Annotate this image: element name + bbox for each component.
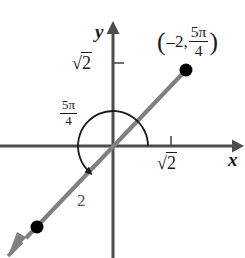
y-tick-radicand: 2	[81, 52, 92, 72]
sqrt-symbol-x: √2	[156, 152, 177, 172]
x-axis-tick-label: √2	[156, 152, 177, 172]
angle-numerator: 5π	[60, 99, 77, 114]
point-coordinate-label: ( –2, 5π 4 )	[157, 24, 218, 59]
y-axis-arrowhead	[107, 21, 120, 34]
point-angle-numerator: 5π	[189, 24, 209, 42]
sqrt-symbol-y: √2	[71, 52, 92, 72]
y-axis-label: y	[95, 22, 103, 41]
point-angle-fraction: 5π 4	[189, 24, 209, 59]
x-tick-radicand: 2	[166, 152, 177, 172]
close-paren: )	[209, 31, 218, 54]
angle-denominator: 4	[63, 114, 73, 128]
radius-value: –2,	[167, 33, 188, 50]
open-paren: (	[157, 31, 166, 54]
angle-fraction: 5π 4	[60, 99, 77, 128]
polar-coordinate-diagram: y x √2 √2 5π 4 ( –2, 5π 4 ) 2	[0, 0, 245, 258]
x-axis-label: x	[228, 150, 238, 169]
segment-length-label: 2	[77, 192, 86, 209]
coordinate-group: ( –2, 5π 4 )	[157, 24, 218, 59]
point-angle-denominator: 4	[193, 42, 205, 59]
y-axis-tick-label: √2	[71, 52, 92, 72]
angle-measure-label: 5π 4	[60, 99, 77, 128]
point-terminal	[180, 64, 193, 77]
point-opposite	[31, 221, 44, 234]
